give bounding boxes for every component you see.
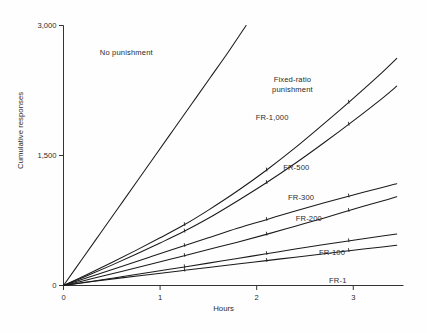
reinforcement-hatch-mark <box>266 217 267 221</box>
reinforcement-hatch-mark <box>184 229 185 233</box>
y-axis-title: Cumulative responses <box>16 91 25 168</box>
cumulative-response-chart: Cumulative responses Hours 01,5003,000 0… <box>0 0 427 333</box>
x-tick-label: 1 <box>145 293 175 302</box>
annotation-line: Fixed-ratio <box>262 75 322 85</box>
reinforcement-hatch-mark <box>348 122 349 126</box>
reinforcement-hatch-mark <box>184 253 185 257</box>
annotation-fixed-ratio-punishment: Fixed-ratiopunishment <box>262 75 322 96</box>
reinforcement-hatch-mark <box>266 251 267 255</box>
x-tick-label: 0 <box>49 293 79 302</box>
annotation-fr-100: FR-100 <box>297 248 367 258</box>
curves-group <box>64 26 397 286</box>
annotation-fr-200: FR-200 <box>274 214 344 224</box>
reinforcement-hatch-mark <box>184 243 185 247</box>
annotation-fr-1-000: FR-1,000 <box>237 113 307 123</box>
reinforcement-hatch-mark <box>184 268 185 272</box>
reinforcement-hatch-mark <box>348 208 349 212</box>
reinforcement-hatch-mark <box>348 238 349 242</box>
annotation-fr-300: FR-300 <box>266 193 336 203</box>
y-tick-label: 1,500 <box>37 151 56 160</box>
reinforcement-hatch-mark <box>184 264 185 268</box>
reinforcement-hatch-mark <box>348 194 349 198</box>
annotation-fr-1: FR-1 <box>303 276 373 286</box>
x-axis-title: Hours <box>213 304 234 313</box>
reinforcement-hatch-mark <box>266 258 267 262</box>
y-tick-label: 0 <box>52 281 56 290</box>
annotation-no-punishment: No punishment <box>91 48 161 58</box>
reinforcement-hatch-mark <box>266 180 267 184</box>
reinforcement-hatch-mark <box>266 232 267 236</box>
reinforcement-hatch-mark <box>348 100 349 104</box>
x-tick-label: 2 <box>242 293 272 302</box>
annotation-line: punishment <box>262 85 322 95</box>
y-tick-label: 3,000 <box>37 21 56 30</box>
reinforcement-hatch-mark <box>184 222 185 226</box>
axes-group <box>64 26 404 286</box>
x-tick-label: 3 <box>338 293 368 302</box>
annotation-fr-500: FR-500 <box>261 163 331 173</box>
curve-fr-300 <box>64 184 397 286</box>
